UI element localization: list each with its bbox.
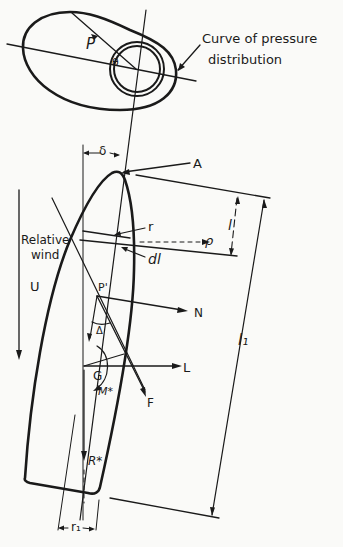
label-a: A [193, 157, 202, 170]
label-rho: ρ [205, 234, 213, 247]
label-r: r [148, 220, 153, 233]
l1-dim-line [212, 200, 264, 515]
label-relative: Relative [21, 234, 69, 246]
label-p-prime: P' [98, 282, 108, 293]
label-u: U [30, 280, 40, 293]
reference-line [7, 44, 196, 81]
label-r-star: R* [88, 455, 102, 467]
label-big-delta: Δ [96, 326, 103, 336]
label-l1: l₁ [238, 333, 248, 348]
label-g: G [93, 370, 102, 382]
label-n: N [194, 307, 203, 319]
p-radius-line [72, 13, 136, 69]
label-p: P [86, 37, 95, 52]
label-dl: dl [148, 252, 161, 266]
body-axis [80, 10, 146, 520]
label-wind: wind [31, 249, 59, 261]
label-curve-line1: Curve of pressure [202, 32, 317, 45]
label-theta: θ [112, 57, 119, 68]
label-delta: δ [99, 145, 106, 157]
label-lift: L [183, 361, 190, 374]
label-l: l [228, 218, 232, 232]
label-curve-line2: distribution [208, 53, 282, 66]
projectile-pressure-diagram [0, 0, 343, 547]
pressure-curve [23, 12, 176, 110]
label-f: F [147, 397, 154, 409]
label-m-star: M* [98, 386, 113, 397]
label-r1: r₁ [71, 521, 81, 533]
